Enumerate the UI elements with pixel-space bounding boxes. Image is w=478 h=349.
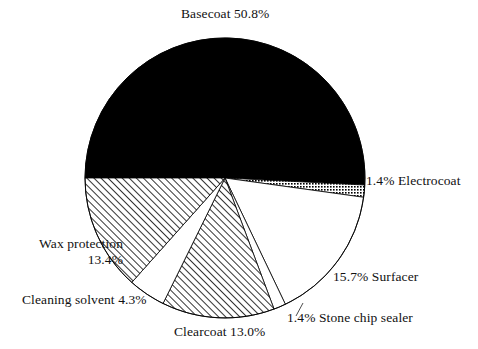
pie-label-wax-protection-line1: Wax protection bbox=[39, 236, 123, 251]
pie-chart: Basecoat 50.8% 1.4% Electrocoat 15.7% Su… bbox=[0, 0, 478, 349]
pie-label-surfacer: 15.7% Surfacer bbox=[333, 269, 418, 285]
pie-label-wax-protection: Wax protection 13.4% bbox=[18, 236, 123, 267]
pie-slice-basecoat bbox=[85, 38, 365, 185]
pie-label-clearcoat: Clearcoat 13.0% bbox=[174, 324, 265, 340]
pie-label-basecoat: Basecoat 50.8% bbox=[181, 6, 269, 22]
pie-label-electrocoat: 1.4% Electrocoat bbox=[366, 173, 461, 189]
pie-label-cleaning-solvent: Cleaning solvent 4.3% bbox=[22, 292, 147, 308]
pie-label-stone-chip-sealer: 1.4% Stone chip sealer bbox=[287, 310, 413, 326]
pie-label-wax-protection-line2: 13.4% bbox=[18, 252, 123, 268]
